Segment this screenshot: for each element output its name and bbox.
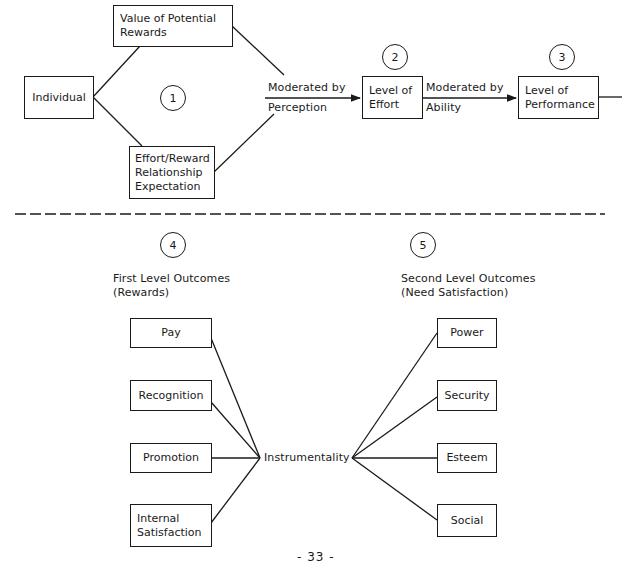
performance-box-line2: Performance bbox=[525, 98, 595, 112]
marker-2: 2 bbox=[382, 44, 408, 70]
promotion-box: Promotion bbox=[130, 443, 212, 473]
first-level-subtitle: (Rewards) bbox=[113, 286, 169, 300]
power-label: Power bbox=[450, 326, 483, 340]
line-hub-to-social bbox=[352, 458, 437, 520]
marker-4: 4 bbox=[160, 232, 186, 258]
line-individual-to-expectation bbox=[93, 97, 142, 146]
individual-box: Individual bbox=[24, 76, 94, 119]
second-level-subtitle: (Need Satisfaction) bbox=[401, 286, 508, 300]
expectation-box-line2: Relationship bbox=[135, 166, 210, 180]
effort-reward-expectation-box: Effort/Reward Relationship Expectation bbox=[129, 146, 215, 199]
value-of-potential-rewards-box: Value of Potential Rewards bbox=[113, 5, 233, 47]
power-box: Power bbox=[437, 318, 497, 348]
security-label: Security bbox=[444, 389, 489, 403]
perception-arrow-label-below: Perception bbox=[268, 101, 327, 115]
ability-arrow-label-above: Moderated by bbox=[426, 81, 504, 95]
marker-3: 3 bbox=[549, 44, 575, 70]
second-level-title: Second Level Outcomes bbox=[401, 272, 536, 286]
instrumentality-hub-label: Instrumentality bbox=[264, 451, 350, 465]
line-hub-to-security bbox=[352, 397, 437, 458]
line-internal-to-hub bbox=[211, 458, 260, 523]
line-pay-to-hub bbox=[211, 338, 260, 458]
marker-1: 1 bbox=[160, 85, 186, 111]
expectation-box-line1: Effort/Reward bbox=[135, 152, 210, 166]
value-box-line1: Value of Potential bbox=[120, 12, 216, 26]
promotion-label: Promotion bbox=[143, 451, 199, 465]
security-box: Security bbox=[437, 380, 497, 411]
line-individual-to-value bbox=[93, 46, 140, 97]
esteem-box: Esteem bbox=[437, 443, 497, 473]
level-of-effort-box: Level of Effort bbox=[362, 76, 423, 119]
line-value-to-perception bbox=[232, 26, 284, 75]
first-level-title: First Level Outcomes bbox=[113, 272, 230, 286]
pay-label: Pay bbox=[161, 326, 180, 340]
line-hub-to-power bbox=[352, 333, 437, 458]
expectation-box-line3: Expectation bbox=[135, 180, 210, 194]
social-label: Social bbox=[451, 514, 484, 528]
recognition-label: Recognition bbox=[139, 389, 204, 403]
internal-satisfaction-line2: Satisfaction bbox=[137, 526, 202, 540]
page-number: - 33 - bbox=[297, 550, 335, 564]
effort-box-line2: Effort bbox=[369, 98, 412, 112]
performance-box-line1: Level of bbox=[525, 84, 595, 98]
ability-arrow-label-below: Ability bbox=[426, 101, 461, 115]
social-box: Social bbox=[437, 504, 497, 537]
pay-box: Pay bbox=[130, 318, 212, 348]
value-box-line2: Rewards bbox=[120, 26, 216, 40]
effort-box-line1: Level of bbox=[369, 84, 412, 98]
internal-satisfaction-line1: Internal bbox=[137, 512, 202, 526]
perception-arrow-label-above: Moderated by bbox=[268, 81, 346, 95]
internal-satisfaction-box: Internal Satisfaction bbox=[130, 504, 212, 547]
level-of-performance-box: Level of Performance bbox=[518, 76, 599, 119]
marker-5: 5 bbox=[410, 232, 436, 258]
line-recognition-to-hub bbox=[211, 402, 260, 458]
individual-label: Individual bbox=[32, 91, 86, 105]
esteem-label: Esteem bbox=[446, 451, 487, 465]
line-expectation-to-perception bbox=[214, 114, 274, 172]
recognition-box: Recognition bbox=[130, 380, 212, 411]
